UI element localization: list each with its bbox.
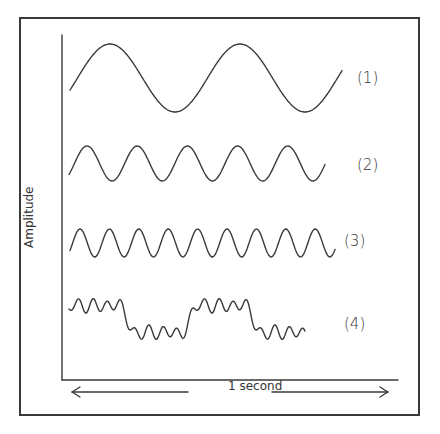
wave-label-3: (3) [344, 232, 365, 250]
wave-3 [70, 229, 335, 257]
wave-4 [69, 299, 305, 340]
y-axis-label: Amplitude [22, 187, 36, 249]
wave-label-4: (4) [344, 315, 365, 333]
wave-label-2: (2) [357, 156, 378, 174]
waveform-diagram [0, 0, 440, 434]
wave-1 [70, 44, 342, 112]
wave-label-1: (1) [357, 69, 378, 87]
x-axis-label: 1 second [228, 379, 282, 393]
wave-2 [69, 146, 325, 181]
